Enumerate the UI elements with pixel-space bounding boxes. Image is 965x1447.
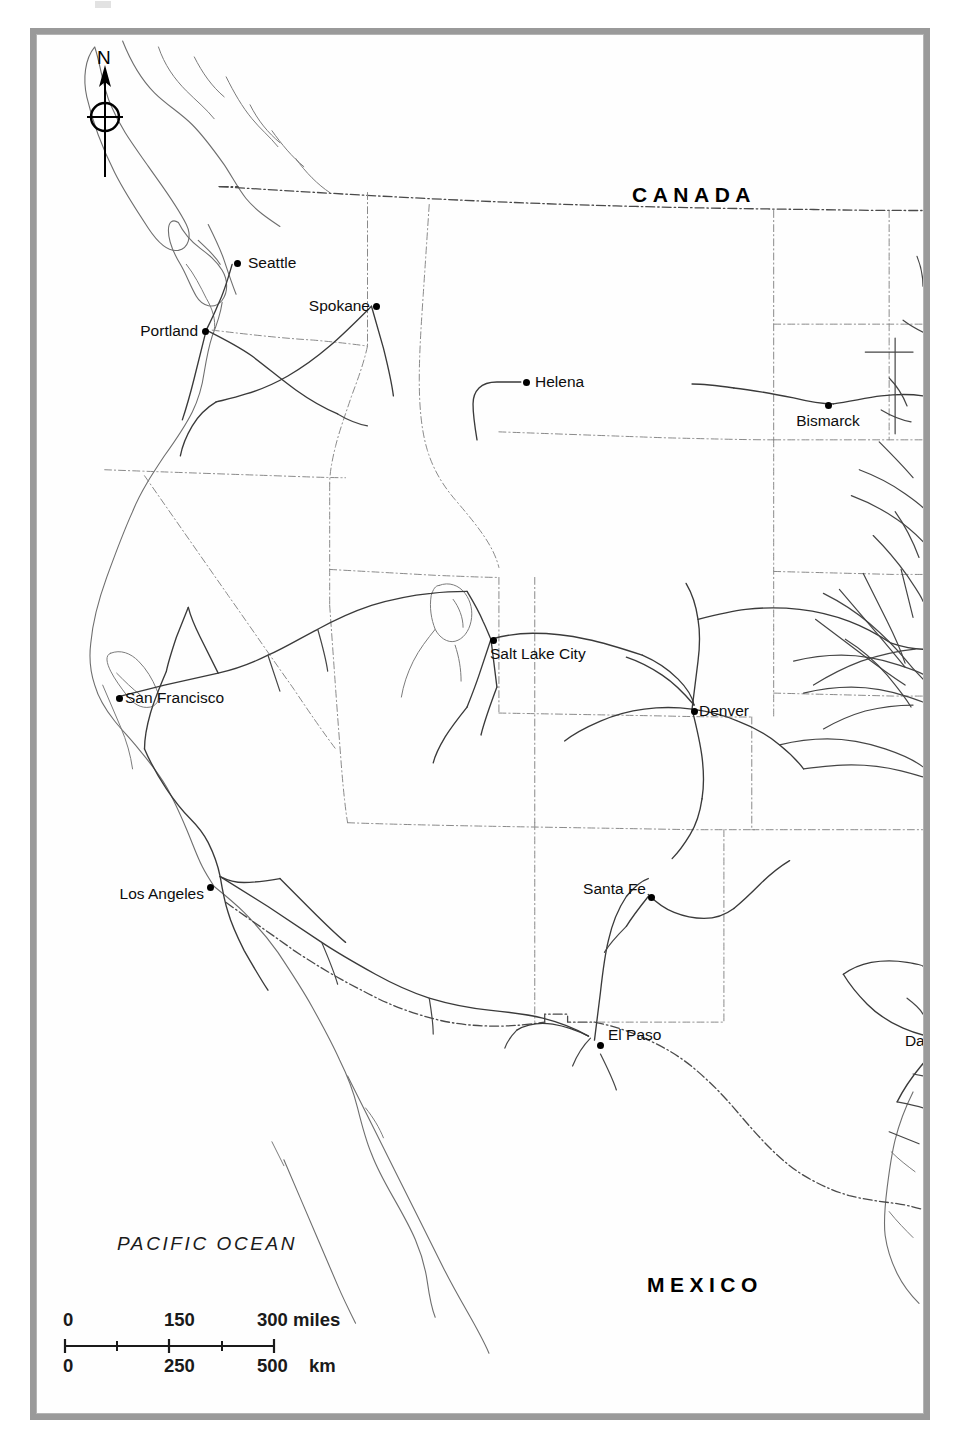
city-dot-santa-fe[interactable] bbox=[648, 894, 655, 901]
scale-miles-tick-1: 150 bbox=[164, 1309, 195, 1331]
compass-rose: N bbox=[75, 51, 135, 181]
ocean-label-pacific-ocean: PACIFIC OCEAN bbox=[117, 1233, 297, 1255]
city-label-bismarck: Bismarck bbox=[37, 412, 924, 430]
map-inner-frame: .coast{fill:none;stroke:#6e6e6e;stroke-w… bbox=[36, 34, 924, 1414]
city-label-salt-lake-city: Salt Lake City bbox=[490, 645, 586, 663]
scale-km-tick-2: 500 bbox=[257, 1355, 288, 1377]
city-label-santa-fe: Santa Fe bbox=[37, 880, 646, 898]
city-label-portland: Portland bbox=[37, 322, 198, 340]
scale-km-row: 0 250 500 km bbox=[61, 1355, 351, 1379]
scale-ruler bbox=[61, 1339, 351, 1353]
city-dot-denver[interactable] bbox=[691, 708, 698, 715]
scale-bar: 0 150 300 miles 0 250 500 km bbox=[61, 1309, 351, 1409]
map-frame: .coast{fill:none;stroke:#6e6e6e;stroke-w… bbox=[30, 28, 930, 1420]
scale-miles-tick-2: 300 bbox=[257, 1309, 288, 1331]
city-dot-helena[interactable] bbox=[523, 379, 530, 386]
city-label-seattle: Seattle bbox=[248, 254, 296, 272]
scale-miles-tick-0: 0 bbox=[63, 1309, 73, 1331]
city-dot-spokane[interactable] bbox=[373, 303, 380, 310]
city-dot-bismarck[interactable] bbox=[825, 402, 832, 409]
scale-km-unit: km bbox=[309, 1355, 336, 1377]
compass-rose-icon bbox=[75, 51, 135, 181]
city-label-spokane: Spokane bbox=[37, 297, 370, 315]
scale-miles-unit: miles bbox=[293, 1309, 340, 1331]
scale-km-tick-1: 250 bbox=[164, 1355, 195, 1377]
compass-north-label: N bbox=[97, 47, 111, 69]
city-label-helena: Helena bbox=[535, 373, 584, 391]
city-dot-seattle[interactable] bbox=[234, 260, 241, 267]
scale-km-tick-0: 0 bbox=[63, 1355, 73, 1377]
city-label-san-francisco: San Francisco bbox=[125, 689, 224, 707]
page-artifact-mark bbox=[95, 1, 111, 8]
city-dot-portland[interactable] bbox=[202, 328, 209, 335]
city-label-dallas: Dallas bbox=[37, 1032, 924, 1050]
city-dot-salt-lake-city[interactable] bbox=[490, 637, 497, 644]
scale-miles-row: 0 150 300 miles bbox=[61, 1309, 351, 1333]
city-dot-san-francisco[interactable] bbox=[116, 695, 123, 702]
city-label-denver: Denver bbox=[699, 702, 749, 720]
country-label-canada: CANADA bbox=[632, 183, 756, 207]
map-geometry: .coast{fill:none;stroke:#6e6e6e;stroke-w… bbox=[37, 35, 923, 1413]
country-label-mexico: MEXICO bbox=[647, 1273, 763, 1297]
